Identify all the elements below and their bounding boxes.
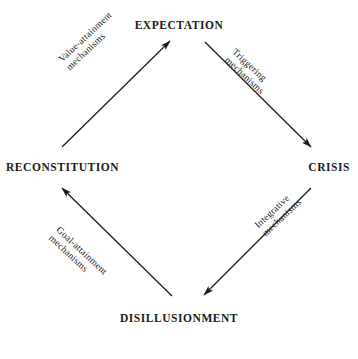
- node-crisis: CRISIS: [308, 162, 350, 174]
- cycle-diagram: EXPECTATION CRISIS DISILLUSIONMENT RECON…: [0, 0, 358, 359]
- node-disillusionment: DISILLUSIONMENT: [120, 313, 238, 325]
- node-reconstitution: RECONSTITUTION: [6, 162, 119, 174]
- edge-arrows-layer: [0, 0, 358, 359]
- node-expectation: EXPECTATION: [135, 20, 224, 32]
